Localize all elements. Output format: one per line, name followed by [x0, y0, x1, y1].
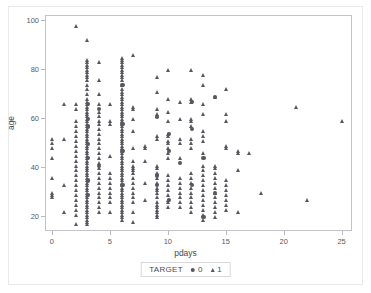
- data-point: [97, 195, 101, 199]
- data-point: [120, 183, 124, 187]
- data-point: [224, 203, 228, 207]
- data-point: [108, 200, 112, 204]
- data-point: [74, 173, 78, 177]
- data-point: [166, 141, 170, 145]
- data-point: [85, 78, 89, 82]
- data-point: [131, 146, 135, 150]
- data-point: [155, 166, 159, 170]
- data-point: [166, 119, 170, 123]
- data-point: [85, 38, 89, 42]
- data-point: [166, 205, 170, 209]
- legend-entry-1[interactable]: 1: [210, 265, 221, 274]
- data-point: [305, 198, 309, 202]
- data-point: [86, 178, 90, 182]
- data-point: [74, 183, 78, 187]
- data-point: [178, 205, 182, 209]
- data-point: [236, 210, 240, 214]
- data-point: [143, 146, 147, 150]
- data-point: [74, 208, 78, 212]
- x-tick-mark: [284, 231, 285, 235]
- data-point: [131, 191, 135, 195]
- x-axis-title: pdays: [0, 248, 371, 258]
- data-point: [166, 97, 170, 101]
- data-point: [213, 176, 217, 180]
- x-tick-mark: [110, 231, 111, 235]
- data-point: [224, 178, 228, 182]
- data-point: [259, 191, 263, 195]
- data-point: [74, 134, 78, 138]
- data-point: [97, 60, 101, 64]
- data-point: [213, 171, 217, 175]
- data-point: [97, 176, 101, 180]
- data-point: [155, 195, 159, 199]
- y-tick-label: 80: [19, 65, 39, 74]
- data-point: [201, 198, 205, 202]
- data-point: [74, 124, 78, 128]
- data-point: [166, 68, 170, 72]
- data-point: [247, 151, 251, 155]
- data-point: [50, 195, 54, 199]
- data-point: [131, 107, 135, 111]
- data-point: [50, 141, 54, 145]
- data-point: [201, 83, 205, 87]
- data-point: [131, 220, 135, 224]
- data-point: [178, 156, 182, 160]
- data-point: [201, 208, 205, 212]
- data-point: [224, 119, 228, 123]
- data-point: [167, 132, 171, 136]
- data-point: [62, 137, 66, 141]
- data-point: [143, 198, 147, 202]
- data-point: [74, 144, 78, 148]
- data-point: [189, 171, 193, 175]
- y-tick-label: 20: [19, 212, 39, 221]
- data-point: [85, 87, 89, 91]
- x-tick-label: 15: [222, 237, 230, 246]
- x-tick-label: 5: [108, 237, 112, 246]
- data-point: [155, 191, 159, 195]
- triangle-marker-icon: [210, 268, 214, 272]
- data-point: [201, 129, 205, 133]
- circle-marker-icon: [191, 268, 195, 272]
- data-point: [74, 198, 78, 202]
- data-point: [201, 178, 205, 182]
- legend-entry-0[interactable]: 0: [191, 265, 202, 274]
- data-point: [97, 205, 101, 209]
- data-point: [97, 146, 101, 150]
- data-point: [74, 222, 78, 226]
- legend-label-1: 1: [217, 265, 221, 274]
- data-point: [201, 134, 205, 138]
- data-point: [213, 95, 217, 99]
- data-point: [74, 149, 78, 153]
- data-point: [166, 110, 170, 114]
- data-point: [201, 168, 205, 172]
- data-point: [131, 195, 135, 199]
- data-point: [85, 222, 89, 226]
- data-point: [224, 183, 228, 187]
- data-point: [224, 208, 228, 212]
- data-point: [86, 193, 90, 197]
- data-point: [201, 188, 205, 192]
- data-point: [189, 119, 193, 123]
- data-point: [86, 142, 90, 146]
- data-point: [86, 102, 90, 106]
- data-point: [131, 186, 135, 190]
- data-point: [131, 129, 135, 133]
- legend-label-0: 0: [198, 265, 202, 274]
- x-tick-label: 0: [50, 237, 54, 246]
- data-point: [190, 127, 194, 131]
- data-point: [97, 151, 101, 155]
- y-tick-label: 40: [19, 163, 39, 172]
- data-point: [108, 186, 112, 190]
- data-point: [224, 188, 228, 192]
- data-point: [166, 156, 170, 160]
- data-point: [97, 114, 101, 118]
- data-point: [213, 181, 217, 185]
- data-point: [213, 215, 217, 219]
- data-point: [108, 210, 112, 214]
- x-tick-mark: [342, 231, 343, 235]
- data-point: [50, 137, 54, 141]
- data-point: [108, 195, 112, 199]
- data-point: [143, 159, 147, 163]
- data-point: [62, 210, 66, 214]
- data-point: [155, 215, 159, 219]
